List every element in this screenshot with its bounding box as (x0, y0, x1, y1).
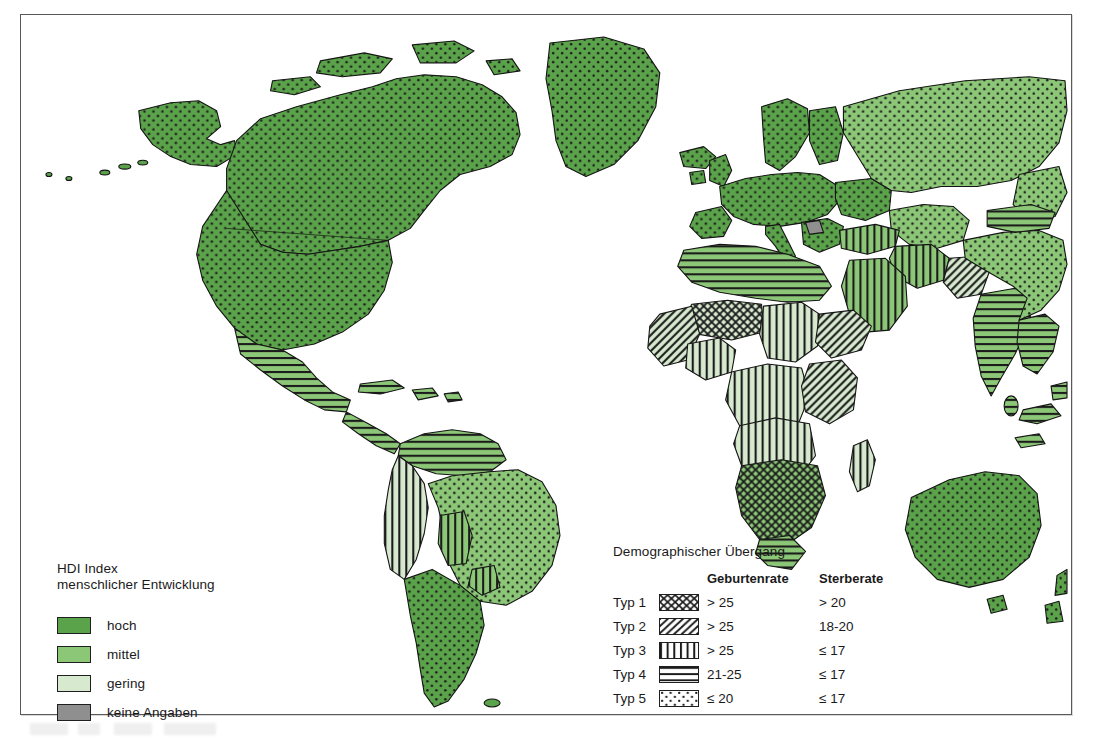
hdi-legend-item-mittel[interactable]: mittel (57, 642, 317, 666)
typ-swatch-1 (659, 594, 707, 611)
typ-swatch-3 (659, 642, 707, 659)
hdi-label-mittel: mittel (107, 647, 140, 662)
header-geburtenrate: Geburtenrate (707, 571, 819, 586)
region-north-america[interactable] (46, 37, 716, 454)
region-africa[interactable] (648, 244, 876, 569)
demographic-row-typ-2[interactable]: Typ 2 > 25 18-20 (613, 614, 973, 638)
death-rate-4: ≤ 17 (819, 667, 919, 682)
hdi-swatch-mittel (57, 646, 91, 663)
hdi-legend-item-keine-angaben[interactable]: keine Angaben (57, 700, 317, 724)
hdi-swatch-gering (57, 675, 91, 692)
typ-label-4: Typ 4 (613, 667, 659, 682)
typ-swatch-5 (659, 690, 707, 707)
region-south-america[interactable] (384, 430, 560, 707)
birth-rate-2: > 25 (707, 619, 819, 634)
scan-artifact (30, 723, 290, 735)
hdi-swatch-keine-angaben (57, 704, 91, 721)
demographic-row-typ-5[interactable]: Typ 5 ≤ 20 ≤ 17 (613, 686, 973, 710)
hdi-legend: HDI Index menschlicher Entwicklung hoch … (57, 561, 317, 729)
birth-rate-5: ≤ 20 (707, 691, 819, 706)
death-rate-2: 18-20 (819, 619, 919, 634)
demographic-legend: Demographischer Übergang Geburtenrate St… (613, 544, 973, 710)
hdi-swatch-hoch (57, 617, 91, 634)
death-rate-3: ≤ 17 (819, 643, 919, 658)
hdi-label-keine-angaben: keine Angaben (107, 705, 198, 720)
map-frame: .hdi-high { fill:#5ba34a; } .hdi-med { f… (20, 14, 1072, 715)
typ-swatch-4 (659, 666, 707, 683)
hdi-legend-item-hoch[interactable]: hoch (57, 613, 317, 637)
figure-root: .hdi-high { fill:#5ba34a; } .hdi-med { f… (0, 0, 1094, 740)
death-rate-1: > 20 (819, 595, 919, 610)
typ-label-5: Typ 5 (613, 691, 659, 706)
demographic-row-typ-1[interactable]: Typ 1 > 25 > 20 (613, 590, 973, 614)
typ-label-1: Typ 1 (613, 595, 659, 610)
typ-label-2: Typ 2 (613, 619, 659, 634)
birth-rate-3: > 25 (707, 643, 819, 658)
hdi-label-gering: gering (107, 676, 145, 691)
birth-rate-1: > 25 (707, 595, 819, 610)
hdi-legend-title: HDI Index menschlicher Entwicklung (57, 561, 317, 593)
header-sterberate: Sterberate (819, 571, 919, 586)
hdi-label-hoch: hoch (107, 618, 137, 633)
demographic-row-typ-4[interactable]: Typ 4 21-25 ≤ 17 (613, 662, 973, 686)
typ-label-3: Typ 3 (613, 643, 659, 658)
demographic-legend-header: Geburtenrate Sterberate (613, 568, 973, 586)
death-rate-5: ≤ 17 (819, 691, 919, 706)
birth-rate-4: 21-25 (707, 667, 819, 682)
hdi-legend-rows: hoch mittel gering keine Angaben (57, 613, 317, 724)
typ-swatch-2 (659, 618, 707, 635)
hdi-legend-item-gering[interactable]: gering (57, 671, 317, 695)
demographic-row-typ-3[interactable]: Typ 3 > 25 ≤ 17 (613, 638, 973, 662)
demographic-legend-title: Demographischer Übergang (613, 544, 973, 559)
